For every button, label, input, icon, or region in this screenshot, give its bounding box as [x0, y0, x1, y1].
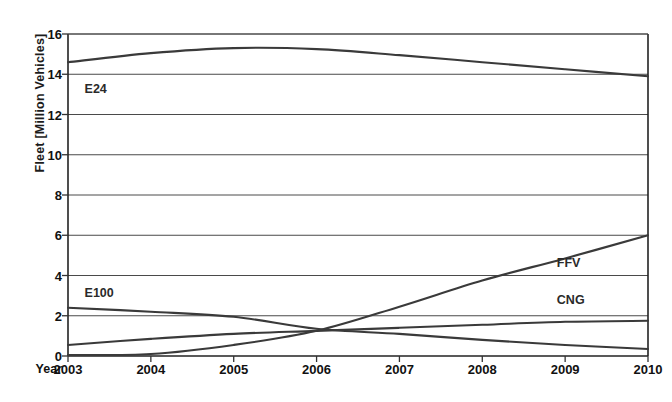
x-tick-label: 2005	[204, 362, 264, 377]
x-tick-label: 2006	[287, 362, 347, 377]
x-tick-label: 2010	[618, 362, 672, 377]
series-label-cng: CNG	[557, 293, 585, 307]
y-tick-label: 16	[22, 28, 62, 41]
x-tick-label: 2003	[38, 362, 98, 377]
y-tick-label: 0	[22, 350, 62, 363]
y-tick-label: 12	[22, 108, 62, 121]
y-tick-label: 4	[22, 269, 62, 282]
series-label-ffv: FFV	[557, 256, 581, 270]
line-chart: Fleet [Million Vehicles] 0246810121416 Y…	[0, 0, 672, 402]
x-tick-label: 2007	[369, 362, 429, 377]
plot-area	[0, 0, 672, 402]
x-tick-label: 2004	[121, 362, 181, 377]
x-axis-tick-labels: 20032004200520062007200820092010	[68, 362, 648, 386]
series-line-e24	[68, 48, 648, 76]
series-label-e24: E24	[85, 82, 107, 96]
y-tick-label: 8	[22, 189, 62, 202]
y-tick-label: 6	[22, 229, 62, 242]
series-label-e100: E100	[85, 286, 114, 300]
series-line-cng	[68, 321, 648, 345]
y-tick-label: 14	[22, 68, 62, 81]
x-tick-label: 2008	[452, 362, 512, 377]
y-tick-label: 2	[22, 309, 62, 322]
x-tick-label: 2009	[535, 362, 595, 377]
y-tick-label: 10	[22, 148, 62, 161]
y-axis-tick-labels: 0246810121416	[20, 0, 62, 402]
